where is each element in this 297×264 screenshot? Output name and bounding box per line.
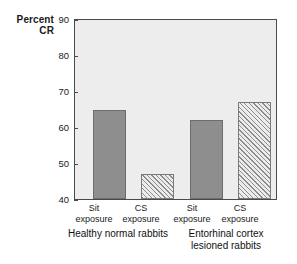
x-tick-label-healthy-cs: CS exposure bbox=[113, 203, 169, 224]
x-tick-label-lesioned-cs: CS exposure bbox=[212, 203, 268, 224]
bar-healthy-cs[interactable] bbox=[141, 174, 174, 199]
y-tick-label-60: 60 bbox=[29, 123, 69, 133]
y-tick-label-90: 90 bbox=[29, 15, 69, 25]
bar-chart-figure: Percent CR 90 80 70 60 50 40 Sit exposur… bbox=[0, 0, 297, 264]
y-tick-mark-40 bbox=[74, 200, 78, 201]
bars-layer bbox=[75, 20, 276, 199]
y-tick-label-70: 70 bbox=[29, 87, 69, 97]
y-tick-label-80: 80 bbox=[29, 51, 69, 61]
group-label-lesioned: Entorhinal cortex lesioned rabbits bbox=[168, 228, 284, 252]
group-label-healthy: Healthy normal rabbits bbox=[62, 228, 174, 240]
bar-lesioned-sit[interactable] bbox=[190, 120, 223, 199]
y-tick-label-40: 40 bbox=[29, 195, 69, 205]
y-tick-label-50: 50 bbox=[29, 159, 69, 169]
bar-healthy-sit[interactable] bbox=[93, 110, 126, 200]
bar-lesioned-cs[interactable] bbox=[238, 102, 271, 199]
